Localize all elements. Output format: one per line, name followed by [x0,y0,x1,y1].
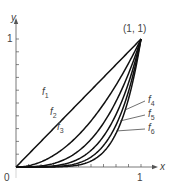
curves [16,39,141,167]
x-axis-arrow-icon [152,165,158,169]
label-f2: f2 [50,106,57,119]
y-one-label: 1 [7,33,13,44]
point-annotation: (1, 1) [123,23,146,34]
x-axis-label: x [159,161,166,172]
label-f3: f3 [57,121,64,134]
labels: yx011(1, 1)f1f2f3f4f5f6 [4,12,166,183]
label-f4: f4 [148,94,155,107]
label-f5: f5 [148,108,155,121]
power-curves-chart: yx011(1, 1)f1f2f3f4f5f6 [0,0,170,184]
leader-f6 [116,129,145,131]
y-axis-label: y [10,12,17,23]
x-one-label: 1 [137,172,143,183]
origin-label: 0 [4,172,10,183]
curve-f1 [16,39,141,167]
label-f6: f6 [148,122,155,135]
label-f1: f1 [42,86,49,99]
